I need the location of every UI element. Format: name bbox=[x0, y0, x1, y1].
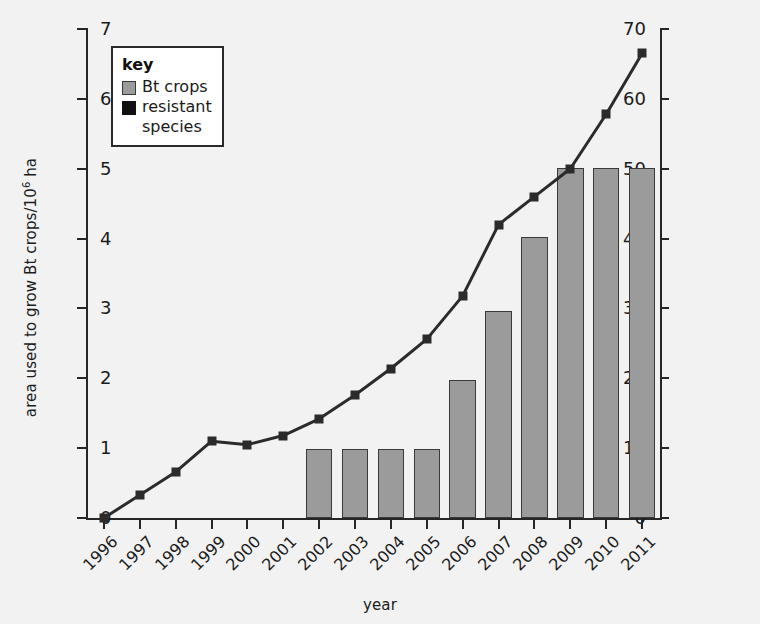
y-axis-left-title-tail: ha bbox=[22, 158, 40, 182]
right-axis-tick bbox=[660, 517, 669, 519]
data-point-marker bbox=[171, 467, 180, 476]
legend-title: key bbox=[122, 55, 214, 74]
data-point-marker bbox=[99, 514, 108, 523]
gray-square-swatch bbox=[122, 81, 136, 95]
x-axis-tick bbox=[354, 519, 356, 529]
right-axis-tick bbox=[660, 238, 669, 240]
x-axis-tick bbox=[533, 519, 535, 529]
x-axis-tick bbox=[282, 519, 284, 529]
right-axis-tick bbox=[660, 168, 669, 170]
data-point-marker bbox=[602, 110, 611, 119]
data-point-marker bbox=[351, 391, 360, 400]
x-axis-tick bbox=[426, 519, 428, 529]
legend-item-bt-crops: Bt crops bbox=[122, 78, 214, 96]
left-axis-tick bbox=[77, 238, 86, 240]
data-point-marker bbox=[243, 440, 252, 449]
left-axis-tick bbox=[77, 447, 86, 449]
data-point-marker bbox=[315, 414, 324, 423]
legend-item-resistant-species-label-line1: resistant bbox=[142, 97, 212, 116]
left-axis-tick bbox=[77, 377, 86, 379]
data-point-marker bbox=[530, 192, 539, 201]
data-point-marker bbox=[566, 164, 575, 173]
x-axis-tick bbox=[211, 519, 213, 529]
legend-item-bt-crops-label: Bt crops bbox=[142, 78, 208, 96]
left-axis-tick bbox=[77, 307, 86, 309]
x-axis-tick bbox=[139, 519, 141, 529]
right-axis-tick bbox=[660, 447, 669, 449]
x-axis-tick bbox=[641, 519, 643, 529]
right-axis-tick bbox=[660, 307, 669, 309]
left-axis-tick bbox=[77, 98, 86, 100]
data-point-marker bbox=[638, 49, 647, 58]
chart-legend: key Bt crops resistant species bbox=[111, 46, 224, 147]
x-axis-tick bbox=[605, 519, 607, 529]
y-axis-left-title: area used to grow Bt crops/106 ha bbox=[21, 118, 40, 458]
legend-item-resistant-species: resistant bbox=[122, 98, 214, 116]
right-axis-spine bbox=[660, 28, 662, 519]
data-point-marker bbox=[386, 364, 395, 373]
x-axis-tick bbox=[462, 519, 464, 529]
y-axis-left-title-main: area used to grow Bt crops/10 bbox=[22, 188, 40, 417]
bottom-axis-spine bbox=[86, 518, 662, 520]
data-point-marker bbox=[422, 335, 431, 344]
x-axis-tick bbox=[390, 519, 392, 529]
bt-crops-chart-figure: area used to grow Bt crops/106 ha number… bbox=[0, 0, 760, 624]
left-axis-tick bbox=[77, 168, 86, 170]
data-point-marker bbox=[494, 220, 503, 229]
left-axis-tick bbox=[77, 28, 86, 30]
y-axis-left-title-superscript: 6 bbox=[21, 182, 32, 188]
x-axis-tick bbox=[498, 519, 500, 529]
data-point-marker bbox=[458, 291, 467, 300]
data-point-marker bbox=[279, 431, 288, 440]
left-axis-tick bbox=[77, 517, 86, 519]
legend-item-resistant-species-label-line2: species bbox=[122, 118, 202, 136]
right-axis-tick bbox=[660, 377, 669, 379]
legend-item-resistant-species-line2-row: species bbox=[122, 118, 214, 136]
legend-item-resistant-species-label: resistant bbox=[142, 98, 212, 116]
x-axis-tick bbox=[175, 519, 177, 529]
x-axis-tick bbox=[569, 519, 571, 529]
x-axis-tick bbox=[246, 519, 248, 529]
black-square-swatch bbox=[122, 101, 136, 115]
data-point-marker bbox=[135, 490, 144, 499]
data-point-marker bbox=[207, 437, 216, 446]
right-axis-tick bbox=[660, 98, 669, 100]
right-axis-tick bbox=[660, 28, 669, 30]
x-axis-tick bbox=[318, 519, 320, 529]
